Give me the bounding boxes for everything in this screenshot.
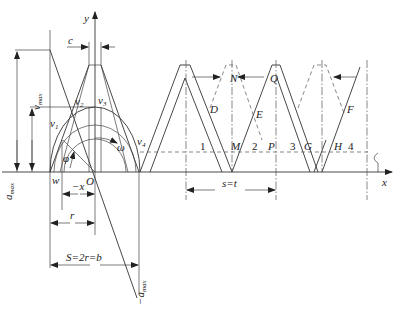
diagram-canvas: y x O c vmax amax −amax v1 v2 v3 v4 ω φ … bbox=[0, 0, 401, 314]
origin-label: O bbox=[86, 175, 94, 187]
omega-arrow bbox=[95, 138, 117, 143]
zone-1: 1 bbox=[200, 140, 206, 152]
v4-label: v4 bbox=[137, 135, 146, 149]
point-f: F bbox=[346, 103, 354, 115]
zone-3: 3 bbox=[290, 140, 296, 152]
point-m: M bbox=[230, 140, 241, 152]
cone-right bbox=[101, 65, 139, 172]
zigzag-solid bbox=[140, 65, 360, 172]
v1-label: v1 bbox=[50, 117, 58, 131]
v2-label: v2 bbox=[75, 95, 84, 109]
point-e: E bbox=[255, 108, 263, 120]
x-axis-label: x bbox=[381, 176, 387, 188]
neg-amax-label: −amax bbox=[134, 280, 148, 305]
omega-label: ω bbox=[117, 141, 125, 153]
v3-label: v3 bbox=[98, 94, 107, 108]
point-h: H bbox=[333, 140, 343, 152]
point-n: N bbox=[229, 72, 238, 84]
phi-label: φ bbox=[63, 152, 69, 164]
zone-4: 4 bbox=[348, 140, 354, 152]
zone-2: 2 bbox=[252, 140, 258, 152]
point-p: P bbox=[267, 140, 275, 152]
point-g: G bbox=[304, 140, 312, 152]
neg-x-label: −x bbox=[72, 180, 84, 192]
w-label: w bbox=[52, 174, 60, 186]
cone-right-inner bbox=[101, 65, 128, 172]
vmax-label: vmax bbox=[30, 93, 44, 110]
c-label: c bbox=[68, 34, 73, 46]
break-symbol bbox=[374, 153, 378, 172]
phi-arrow bbox=[70, 152, 74, 168]
s-eq-label: S=2r=b bbox=[66, 251, 102, 263]
r-label: r bbox=[70, 209, 75, 221]
point-q: Q bbox=[270, 72, 278, 84]
s-t-label: s=t bbox=[222, 177, 238, 189]
amax-label: amax bbox=[2, 182, 16, 200]
y-axis-label: y bbox=[83, 12, 89, 24]
point-d: D bbox=[209, 103, 218, 115]
